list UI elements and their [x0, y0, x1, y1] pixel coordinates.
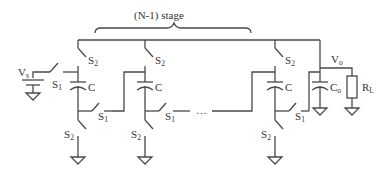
svg-text:S1: S1	[98, 110, 108, 124]
svg-text:S2: S2	[131, 128, 141, 142]
stage-2: S2 C S1 S2	[131, 40, 190, 164]
schematic-svg: (N-1) stage Vs S1 S2 C S1 S2	[0, 0, 386, 181]
svg-text:C: C	[88, 81, 95, 93]
svg-text:C: C	[155, 81, 162, 93]
svg-text:Co: Co	[330, 81, 341, 95]
svg-text:S2: S2	[155, 54, 165, 68]
switch-s2-bottom	[78, 120, 86, 129]
circuit-diagram: (N-1) stage Vs S1 S2 C S1 S2	[0, 0, 386, 181]
s1-label: S1	[52, 78, 62, 92]
stage-n-1: S2 C S1 S2	[261, 40, 309, 164]
stage-brace	[95, 23, 251, 33]
svg-text:S2: S2	[285, 54, 295, 68]
svg-text:RL: RL	[362, 81, 374, 95]
svg-text:C: C	[285, 81, 292, 93]
switch-s1-input	[50, 63, 58, 72]
load-resistor: RL	[320, 68, 374, 115]
voltage-source: Vs	[18, 66, 50, 100]
brace-label: (N-1) stage	[134, 9, 184, 22]
svg-text:S1: S1	[165, 110, 175, 124]
svg-text:S2: S2	[88, 54, 98, 68]
vo-label: Vo	[331, 53, 343, 67]
svg-text:S1: S1	[295, 110, 305, 124]
stage-1: S2 C S1 S2	[64, 40, 112, 164]
vs-label: Vs	[18, 66, 29, 80]
svg-text:S2: S2	[64, 128, 74, 142]
ellipsis: …	[196, 104, 207, 116]
output-capacitor: Co	[312, 40, 341, 115]
switch-s2-top	[78, 48, 86, 57]
svg-text:S2: S2	[261, 128, 271, 142]
